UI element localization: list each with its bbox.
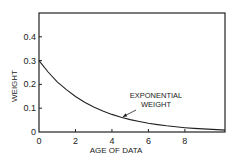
x-tick-label: 6 (146, 136, 151, 146)
y-tick-label: 0.1 (23, 103, 36, 113)
chart: 00.10.20.30.4 02468 AGE OF DATA WEIGHT E… (0, 0, 238, 167)
x-tick-label: 4 (109, 136, 114, 146)
y-axis-label: WEIGHT (10, 70, 19, 102)
x-tick-label: 2 (73, 136, 78, 146)
y-tick-label: 0.4 (23, 32, 36, 42)
x-tick-label: 8 (182, 136, 187, 146)
annotation-line-1: EXPONENTIAL (130, 91, 183, 100)
y-tick-label: 0.3 (23, 56, 36, 66)
x-axis-label: AGE OF DATA (90, 146, 143, 155)
x-tick-label: 0 (36, 136, 41, 146)
y-tick-label: 0 (31, 127, 36, 137)
plot-frame (39, 13, 225, 132)
y-tick-label: 0.2 (23, 79, 36, 89)
annotation-line-2: WEIGHT (141, 100, 171, 109)
